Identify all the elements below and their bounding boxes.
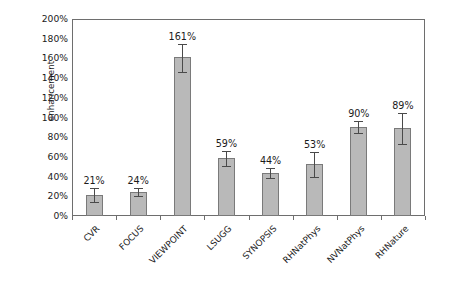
error-bar-cap-upper <box>310 152 319 153</box>
x-axis-tick-mark <box>160 216 161 220</box>
bar-value-label: 89% <box>373 100 433 111</box>
error-bar-cap-upper <box>266 168 275 169</box>
bar-value-label: 24% <box>108 175 168 186</box>
bar-group[interactable]: 53% <box>306 19 323 216</box>
x-axis-tick-mark <box>425 216 426 220</box>
x-axis-tick-mark <box>72 216 73 220</box>
x-axis-tick-mark <box>381 216 382 220</box>
error-bar-cap-lower <box>134 196 143 197</box>
y-axis-tick-label: 200% <box>32 14 68 23</box>
bar-value-label: 53% <box>285 139 345 150</box>
x-axis-tick-label: RHNature <box>364 223 411 270</box>
y-axis-title: enhancement <box>46 31 56 151</box>
error-bar-stem <box>94 188 95 202</box>
x-axis-tick-mark <box>293 216 294 220</box>
error-bar-stem <box>182 44 183 73</box>
bar[interactable] <box>350 127 367 216</box>
bar-group[interactable]: 90% <box>350 19 367 216</box>
error-bar-cap-lower <box>266 178 275 179</box>
error-bar-cap-lower <box>178 72 187 73</box>
error-bar-stem <box>402 113 403 145</box>
bar-value-label: 59% <box>196 138 256 149</box>
x-axis-tick-mark <box>204 216 205 220</box>
error-bar-cap-lower <box>398 144 407 145</box>
y-axis-tick-label: 20% <box>32 191 68 200</box>
x-axis-tick-label: VIEWPOINT <box>143 223 190 270</box>
bar-group[interactable]: 44% <box>262 19 279 216</box>
error-bar-stem <box>226 151 227 166</box>
error-bar-stem <box>270 168 271 178</box>
x-axis-tick-mark <box>337 216 338 220</box>
y-axis-tick-label: 0% <box>32 211 68 220</box>
bar-group[interactable]: 24% <box>130 19 147 216</box>
bar-group[interactable]: 89% <box>394 19 411 216</box>
error-bar-cap-lower <box>310 177 319 178</box>
error-bar-cap-lower <box>90 202 99 203</box>
error-bar-cap-upper <box>398 113 407 114</box>
y-axis-tick-label: 60% <box>32 152 68 161</box>
y-axis-tick-label: 40% <box>32 172 68 181</box>
x-axis-tick-label: RHNatPhys <box>276 223 323 270</box>
error-bar-cap-upper <box>134 188 143 189</box>
bar-value-label: 44% <box>241 155 301 166</box>
x-axis-tick-label: SYNOPSIS <box>231 223 278 270</box>
x-axis-tick-mark <box>116 216 117 220</box>
error-bar-cap-lower <box>354 133 363 134</box>
bar-group[interactable]: 161% <box>174 19 191 216</box>
chart-screenshot: 200%180%160%140%120%100%80%60%40%20%0% e… <box>0 0 455 284</box>
bar[interactable] <box>174 57 191 216</box>
error-bar-cap-upper <box>222 151 231 152</box>
bar-group[interactable]: 21% <box>86 19 103 216</box>
x-axis-tick-mark <box>249 216 250 220</box>
error-bar-stem <box>138 188 139 196</box>
bar[interactable] <box>262 173 279 216</box>
error-bar-stem <box>358 121 359 133</box>
x-axis-tick-label: FOCUS <box>99 223 146 270</box>
plot-area: 21%24%161%59%44%53%90%89% <box>72 19 425 216</box>
error-bar-cap-upper <box>178 44 187 45</box>
error-bar-cap-upper <box>90 188 99 189</box>
bar-value-label: 161% <box>152 31 212 42</box>
x-axis-tick-label: NVNatPhys <box>320 223 367 270</box>
x-axis-tick-label: LSUGG <box>187 223 234 270</box>
bar-group[interactable]: 59% <box>218 19 235 216</box>
error-bar-stem <box>314 152 315 177</box>
error-bar-cap-upper <box>354 121 363 122</box>
error-bar-cap-lower <box>222 166 231 167</box>
